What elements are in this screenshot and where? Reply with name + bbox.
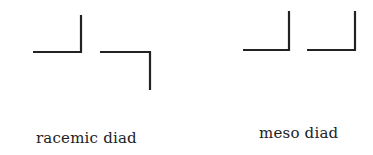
meso-unit-left [243,11,289,50]
racemic-diad-label: racemic diad [36,129,137,147]
racemic-unit-right [100,52,150,90]
meso-diad-label: meso diad [259,124,338,142]
racemic-unit-left [33,15,81,52]
racemic-diad-figure [33,15,150,90]
meso-unit-right [307,11,355,50]
meso-diad-figure [243,11,355,50]
